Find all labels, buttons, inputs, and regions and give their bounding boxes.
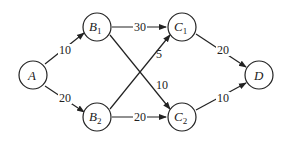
weight-a-b2: 20 — [59, 91, 71, 105]
weight-b1-c1: 30 — [134, 20, 146, 34]
network-diagram: 10 20 30 10 5 20 20 10 A B1 B2 C1 C2 D — [0, 0, 286, 145]
node-c2: C2 — [168, 103, 196, 131]
node-c1: C1 — [168, 13, 196, 41]
node-d: D — [245, 61, 273, 89]
weight-c1-d: 20 — [217, 43, 229, 57]
node-b1: B1 — [83, 13, 111, 41]
node-b2: B2 — [83, 103, 111, 131]
node-a: A — [19, 61, 47, 89]
weight-b2-c1: 5 — [156, 47, 162, 61]
weight-b2-c2: 20 — [134, 110, 146, 124]
weight-a-b1: 10 — [59, 43, 71, 57]
weight-c2-d: 10 — [217, 91, 229, 105]
weight-b1-c2: 10 — [156, 78, 168, 92]
svg-text:D: D — [253, 68, 264, 83]
svg-text:A: A — [27, 68, 36, 83]
